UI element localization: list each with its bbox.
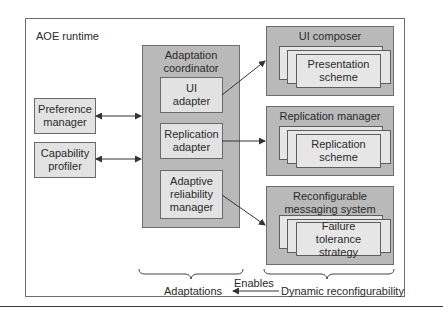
dynamic-reconfigurability-brace bbox=[264, 269, 394, 279]
adaptations-label: Adaptations bbox=[164, 285, 222, 298]
bottom-rule bbox=[0, 306, 443, 307]
ui-adapter-to-composer-arrow bbox=[222, 61, 265, 95]
dynamic-reconfigurability-label: Dynamic reconfigurability bbox=[281, 285, 404, 298]
adaptations-brace bbox=[139, 269, 243, 279]
connector-arrows bbox=[0, 0, 443, 322]
reliability-to-messaging-arrow bbox=[222, 195, 265, 225]
enables-label: Enables bbox=[234, 277, 274, 290]
